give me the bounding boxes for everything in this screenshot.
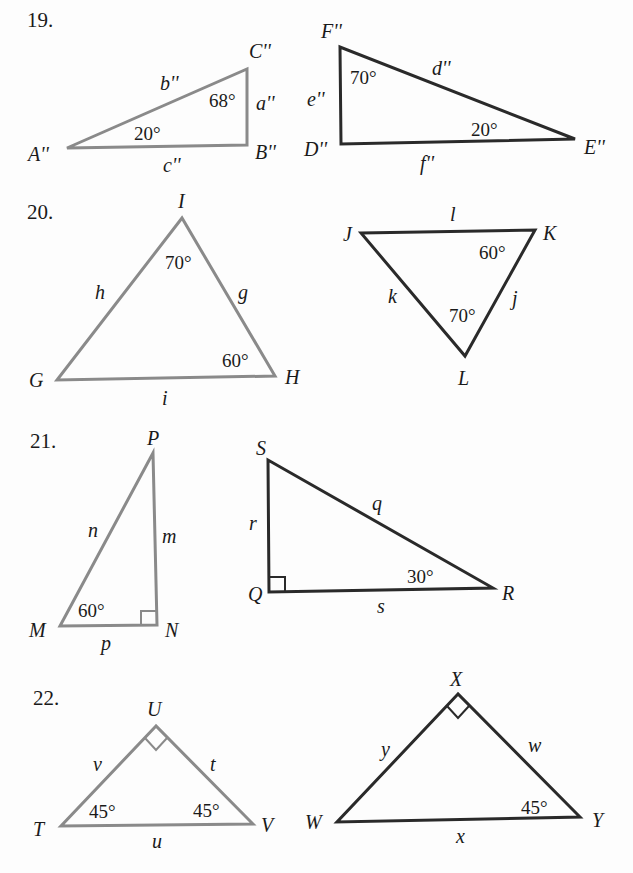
angle-label-k: 60° <box>479 242 506 263</box>
triangle-shape <box>340 47 575 144</box>
side-label-d: d'' <box>432 57 451 79</box>
problem-number: 19. <box>27 8 53 32</box>
side-label-u: u <box>152 830 162 852</box>
vertex-label-c: C'' <box>249 40 272 62</box>
right-angle-marker <box>141 611 156 625</box>
angle-label-e: 20° <box>471 119 498 140</box>
side-label-e: e'' <box>307 88 325 110</box>
triangle-wxy: X W Y y w x 45° <box>305 668 605 847</box>
triangle-qrs: S Q R q r s 30° <box>248 437 514 617</box>
side-label-k: k <box>388 285 398 307</box>
right-angle-marker <box>145 738 167 750</box>
triangle-def-double-prime: F'' D'' E'' d'' e'' f'' 70° 20° <box>303 20 605 175</box>
side-label-j: j <box>509 287 518 310</box>
vertex-label-e: E'' <box>583 136 605 158</box>
vertex-label-v: V <box>261 814 276 836</box>
side-label-p: p <box>99 632 111 655</box>
vertex-label-y: Y <box>592 809 605 831</box>
vertex-label-b: B'' <box>255 141 276 163</box>
side-label-i: i <box>162 387 168 409</box>
vertex-label-f: F'' <box>320 20 342 42</box>
side-label-r: r <box>249 512 257 534</box>
vertex-label-t: T <box>33 818 46 840</box>
angle-label-y: 45° <box>521 797 548 818</box>
side-label-f: f'' <box>420 152 435 175</box>
side-label-q: q <box>372 492 382 515</box>
angle-label-h: 60° <box>222 350 249 371</box>
side-label-x: x <box>455 825 465 847</box>
side-label-h: h <box>95 281 105 303</box>
triangle-mnp: P M N n m p 60° <box>28 427 180 655</box>
vertex-label-g: G <box>29 369 44 391</box>
problem-number: 21. <box>30 429 56 453</box>
side-label-c: c'' <box>163 154 181 176</box>
angle-label-t: 45° <box>89 801 116 822</box>
problem-21: 21. P M N n m p 60° S Q R q r s 30° <box>28 427 514 655</box>
vertex-label-i: I <box>177 190 186 212</box>
angle-label-f: 70° <box>350 67 377 88</box>
triangle-jkl: l J K L k j 60° 70° <box>343 203 558 389</box>
vertex-label-h: H <box>284 366 301 388</box>
vertex-label-a: A'' <box>26 143 49 165</box>
triangle-shape <box>268 460 493 592</box>
problem-19: 19. C'' A'' B'' b'' a'' c'' 68° 20° F'' … <box>26 8 605 176</box>
side-label-t: t <box>210 753 216 775</box>
vertex-label-x: X <box>449 668 463 690</box>
vertex-label-r: R <box>501 582 514 604</box>
side-label-y: y <box>379 738 390 761</box>
vertex-label-n: N <box>164 619 180 641</box>
angle-label-a: 20° <box>134 123 161 144</box>
vertex-label-s: S <box>256 437 266 459</box>
vertex-label-k: K <box>542 222 558 244</box>
vertex-label-p: P <box>146 427 159 449</box>
vertex-label-d: D'' <box>303 138 328 160</box>
triangle-abc-double-prime: C'' A'' B'' b'' a'' c'' 68° 20° <box>26 40 276 176</box>
triangle-shape <box>60 453 157 626</box>
problem-number: 22. <box>33 686 59 710</box>
side-label-g: g <box>238 281 248 304</box>
vertex-label-w: W <box>305 811 324 833</box>
triangle-exercises-page: 19. C'' A'' B'' b'' a'' c'' 68° 20° F'' … <box>0 0 633 873</box>
problem-22: 22. U T V v t u 45° 45° X W Y y w x 45° <box>33 668 605 852</box>
problem-number: 20. <box>27 200 53 224</box>
side-label-n: n <box>88 519 98 541</box>
angle-label-c: 68° <box>209 90 236 111</box>
side-label-m: m <box>162 525 176 547</box>
angle-label-m: 60° <box>78 600 105 621</box>
side-label-s: s <box>377 595 385 617</box>
angle-label-l: 70° <box>449 305 476 326</box>
vertex-label-q: Q <box>248 583 263 605</box>
angle-label-i: 70° <box>165 252 192 273</box>
side-label-w: w <box>528 734 542 756</box>
triangle-tuv: U T V v t u 45° 45° <box>33 698 276 852</box>
side-label-l: l <box>450 203 456 225</box>
vertex-label-m: M <box>28 619 47 641</box>
angle-label-r: 30° <box>407 566 434 587</box>
angle-label-v: 45° <box>193 800 220 821</box>
side-label-a: a'' <box>256 92 275 114</box>
vertex-label-u: U <box>147 698 163 720</box>
right-angle-marker <box>269 577 285 592</box>
side-label-b: b'' <box>160 72 179 94</box>
vertex-label-j: J <box>343 223 353 245</box>
triangle-ghi: I G H h g i 70° 60° <box>29 190 301 409</box>
side-label-v: v <box>93 753 102 775</box>
vertex-label-l: L <box>457 367 469 389</box>
problem-20: 20. I G H h g i 70° 60° l J K L k j 60° … <box>27 190 558 409</box>
right-angle-marker <box>447 706 469 718</box>
